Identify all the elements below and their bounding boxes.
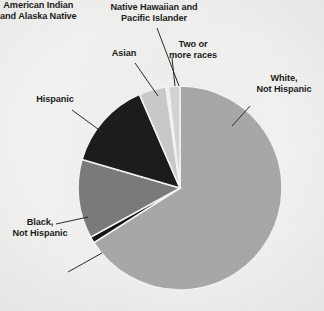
slice-label-black-not-hispanic: Black, Not Hispanic [2,217,78,239]
slice-label-american-indian-and-alaska-native: American Indian and Alaska Native [0,0,77,22]
leader-line-two-or-more [172,58,175,86]
pie-slices-group [78,86,282,290]
slice-label-hispanic: Hispanic [22,94,88,105]
leader-line-hispanic [72,110,102,132]
slice-label-asian: Asian [95,48,153,59]
slice-label-white-not-hispanic: White, Not Hispanic [248,73,320,95]
pie-chart-figure: Native Hawaiian and Pacific Islander Asi… [0,0,324,311]
slice-label-native-hawaiian-and-pacific-islander: Native Hawaiian and Pacific Islander [86,2,222,24]
slice-label-two-or-more-races: Two or more races [160,39,226,61]
leader-line-american-indian [68,253,102,272]
